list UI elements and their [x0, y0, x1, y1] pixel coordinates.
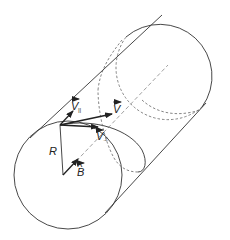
svg-text:V: V: [113, 103, 122, 115]
helix-path-dashed-upper: [98, 40, 122, 90]
label-v: V: [113, 102, 122, 115]
helix-cylinder-diagram: V || V V ⊥ R ^ B: [0, 0, 230, 240]
cylinder-bottom-edge: [105, 103, 206, 213]
diagram-svg: V || V V ⊥ R ^ B: [0, 0, 230, 240]
label-radius: R: [49, 145, 57, 157]
helix-path-dashed-back: [142, 100, 200, 114]
svg-text:⊥: ⊥: [103, 136, 108, 142]
label-v-perp: V ⊥: [96, 130, 108, 142]
perpendicular-velocity-vector: [60, 125, 98, 127]
label-v-parallel: V ||: [71, 99, 82, 113]
axis-dashed: [63, 65, 168, 175]
back-circle-dashed: [116, 37, 202, 120]
svg-text:||: ||: [78, 107, 82, 113]
radius-line: [60, 125, 63, 175]
svg-text:B: B: [77, 166, 84, 178]
b-field-unit-vector: [63, 159, 78, 175]
label-b-hat: ^ B: [77, 161, 84, 178]
cylinder-top-edge: [30, 15, 162, 138]
